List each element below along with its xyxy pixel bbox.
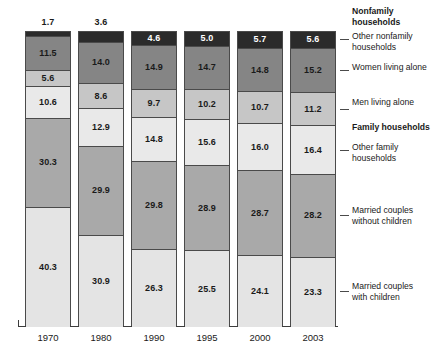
bar-segment[interactable]: 14.8: [238, 49, 282, 93]
legend-label-line: Married couples: [352, 205, 445, 216]
segment-value-label: 8.6: [95, 92, 108, 101]
legend-label-line: Nonfamily: [352, 6, 445, 17]
segment-value-label: 30.9: [92, 277, 110, 286]
legend-item[interactable]: Men living alone: [352, 97, 445, 108]
segment-value-label: 28.9: [198, 204, 216, 213]
bar-segment[interactable]: 14.7: [185, 47, 229, 90]
segment-value-label: 24.1: [251, 287, 269, 296]
bar-stack[interactable]: 3.614.08.612.929.930.9: [78, 31, 124, 326]
segment-value-label: 9.7: [148, 99, 161, 108]
segment-value-label: 28.7: [251, 209, 269, 218]
bar-segment[interactable]: 12.9: [79, 109, 123, 147]
bar-segment[interactable]: 26.3: [132, 250, 176, 328]
bar-segment[interactable]: 30.3: [26, 119, 70, 208]
bar-segment[interactable]: 14.8: [132, 118, 176, 162]
bar-segment[interactable]: 9.7: [132, 90, 176, 119]
x-axis-tick-label: 1980: [78, 332, 124, 343]
legend-label-line: Family households: [352, 122, 445, 133]
legend-label-line: Men living alone: [352, 97, 445, 108]
bar-segment[interactable]: 3.6: [79, 32, 123, 43]
segment-value-label: 29.8: [145, 201, 163, 210]
bar-segment[interactable]: 16.4: [291, 126, 335, 174]
segment-value-label: 14.8: [251, 66, 269, 75]
bar-segment[interactable]: 5.0: [185, 32, 229, 47]
bar-segment[interactable]: 15.2: [291, 49, 335, 94]
legend-group-heading: Nonfamilyhouseholds: [352, 6, 445, 27]
bar-segment[interactable]: 10.6: [26, 87, 70, 118]
segment-value-label: 10.2: [198, 100, 216, 109]
bar-stack[interactable]: 5.615.211.216.428.223.3: [290, 31, 336, 326]
bar-segment[interactable]: 5.6: [26, 71, 70, 88]
bar-segment[interactable]: 11.2: [291, 93, 335, 126]
bar-segment[interactable]: 29.9: [79, 147, 123, 235]
segment-value-label: 12.9: [92, 123, 110, 132]
legend-item[interactable]: Other familyhouseholds: [352, 142, 445, 163]
segment-value-label: 5.6: [307, 35, 320, 44]
x-axis-tick-label: 1970: [25, 332, 71, 343]
bar-column: 3.614.08.612.929.930.9: [78, 31, 124, 326]
legend-leader-line: [340, 291, 349, 292]
bar-stack[interactable]: 5.014.710.215.628.925.5: [184, 31, 230, 326]
segment-value-label: 10.7: [251, 103, 269, 112]
legend-leader-line: [340, 109, 349, 110]
segment-value-label: 5.6: [42, 74, 55, 83]
bar-segment[interactable]: 28.7: [238, 171, 282, 256]
bar-segment[interactable]: 5.6: [291, 32, 335, 49]
segment-value-label: 5.0: [201, 34, 214, 43]
legend-item[interactable]: Other nonfamilyhouseholds: [352, 31, 445, 52]
legend-label-line: with children: [352, 292, 445, 303]
bar-segment[interactable]: 16.0: [238, 124, 282, 171]
legend-leader-line: [340, 150, 349, 151]
segment-value-label: 15.2: [304, 66, 322, 75]
segment-value-label: 23.3: [304, 288, 322, 297]
bar-segment[interactable]: 15.6: [185, 120, 229, 166]
bar-segment[interactable]: 10.7: [238, 92, 282, 124]
bar-segment[interactable]: 11.5: [26, 37, 70, 71]
segment-value-label: 11.2: [304, 105, 321, 114]
segment-value-label: 15.6: [198, 138, 216, 147]
legend-group-heading: Family households: [352, 122, 445, 133]
bar-segment[interactable]: 25.5: [185, 251, 229, 326]
legend-leader-line: [340, 39, 349, 40]
legend-item[interactable]: Married coupleswithout children: [352, 205, 445, 226]
bar-segment[interactable]: 28.9: [185, 166, 229, 251]
legend-leader-line: [340, 70, 349, 71]
bar-segment[interactable]: 14.9: [132, 46, 176, 90]
bar-segment[interactable]: 29.8: [132, 162, 176, 250]
bar-segment[interactable]: 14.0: [79, 43, 123, 84]
bar-segment[interactable]: 28.2: [291, 175, 335, 258]
stacked-bar-chart: 1.711.55.610.630.340.33.614.08.612.929.9…: [0, 0, 445, 357]
segment-value-label: 16.0: [251, 143, 269, 152]
legend-label-line: Other nonfamily: [352, 31, 445, 42]
bar-column: 1.711.55.610.630.340.3: [25, 31, 71, 326]
bar-segment[interactable]: 8.6: [79, 84, 123, 109]
segment-value-label: 3.6: [95, 18, 108, 27]
segment-value-label: 11.5: [39, 49, 56, 58]
legend-label-line: Women living alone: [352, 62, 445, 73]
segment-value-label: 4.6: [148, 34, 161, 43]
bar-stack[interactable]: 4.614.99.714.829.826.3: [131, 31, 177, 326]
bar-segment[interactable]: 24.1: [238, 256, 282, 327]
legend: NonfamilyhouseholdsOther nonfamilyhouseh…: [340, 0, 445, 357]
bar-segment[interactable]: 23.3: [291, 258, 335, 327]
legend-label-line: households: [352, 17, 445, 28]
bar-stack[interactable]: 1.711.55.610.630.340.3: [25, 31, 71, 326]
segment-value-label: 16.4: [304, 146, 322, 155]
x-axis-tick-label: 2000: [237, 332, 283, 343]
segment-value-label: 14.8: [145, 135, 163, 144]
x-axis-origin-tick: [18, 320, 19, 327]
bar-segment[interactable]: 5.7: [238, 32, 282, 49]
legend-label-line: without children: [352, 216, 445, 227]
bar-stack[interactable]: 5.714.810.716.028.724.1: [237, 31, 283, 326]
bar-segment[interactable]: 10.2: [185, 90, 229, 120]
bar-segment[interactable]: 40.3: [26, 208, 70, 327]
bar-column: 4.614.99.714.829.826.3: [131, 31, 177, 326]
bar-segment[interactable]: 30.9: [79, 236, 123, 327]
legend-label-line: Married couples: [352, 281, 445, 292]
segment-value-label: 10.6: [39, 98, 57, 107]
legend-label-line: households: [352, 42, 445, 53]
legend-item[interactable]: Married coupleswith children: [352, 281, 445, 302]
bar-segment[interactable]: 4.6: [132, 32, 176, 46]
segment-value-label: 14.9: [145, 63, 163, 72]
legend-item[interactable]: Women living alone: [352, 62, 445, 73]
